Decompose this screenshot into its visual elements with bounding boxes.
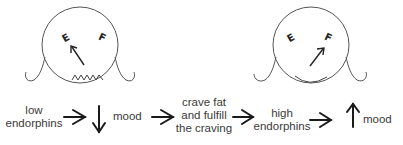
happy-face-e-label: E: [285, 31, 297, 44]
diagram-canvas: E F E F: [0, 0, 403, 145]
sad-face-needle-icon: [72, 47, 84, 65]
arrow-right-icon-3: [233, 110, 253, 124]
sad-face: [25, 7, 134, 83]
happy-face-right-curl-icon: [346, 57, 366, 81]
endorphins-label: endorphins: [4, 117, 64, 130]
happy-face: [254, 7, 366, 83]
high-label: high: [252, 107, 312, 120]
step-crave-fat: crave fat and fulfill the craving: [172, 96, 236, 135]
step-mood-up: mood: [363, 113, 392, 126]
happy-face-needle-icon: [310, 49, 323, 66]
sad-face-left-curl-icon: [25, 57, 45, 81]
sad-face-head: [42, 7, 118, 83]
arrow-down-icon: [93, 106, 105, 132]
step-mood-down: mood: [113, 110, 142, 123]
happy-face-f-label: F: [323, 31, 334, 44]
happy-face-left-curl-icon: [254, 57, 276, 81]
arrow-right-icon-1: [64, 110, 85, 124]
sad-face-f-label: F: [97, 31, 108, 44]
arrow-up-icon: [347, 104, 359, 127]
happy-face-head: [273, 7, 349, 83]
endorphins-label-2: endorphins: [252, 120, 312, 133]
step-high-endorphins: high endorphins: [252, 107, 312, 133]
the-craving-label: the craving: [172, 122, 236, 135]
arrow-right-icon-2: [152, 110, 173, 124]
sad-face-zigzag-mouth-icon: [72, 75, 103, 80]
mood-label: mood: [113, 110, 142, 122]
low-label: low: [4, 104, 64, 117]
sad-face-e-label: E: [60, 31, 72, 44]
sad-face-right-curl-icon: [115, 57, 135, 81]
crave-fat-label: crave fat: [172, 96, 236, 109]
and-fulfill-label: and fulfill: [172, 109, 236, 122]
arrow-right-icon-4: [310, 113, 331, 127]
mood-label-2: mood: [363, 113, 392, 125]
step-low-endorphins: low endorphins: [4, 104, 64, 130]
